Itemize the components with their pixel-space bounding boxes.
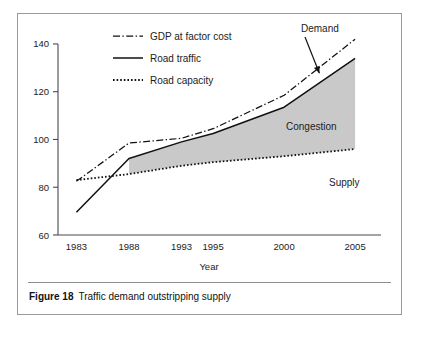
x-axis-tick-label: 1993 [171, 241, 192, 252]
annotation-supply-label: Supply [329, 177, 360, 188]
x-axis-tick-labels: 198319881993199520002005 [66, 241, 366, 252]
chart-legend: GDP at factor costRoad trafficRoad capac… [113, 31, 232, 86]
x-axis-tick-label: 1988 [118, 241, 139, 252]
legend-item-label: Road capacity [150, 75, 213, 86]
caption-divider [28, 282, 391, 283]
y-axis-tick-labels: 6080100120140 [33, 38, 49, 240]
x-axis-title: Year [199, 261, 218, 272]
figure-caption-number: Figure 18 [29, 291, 73, 302]
annotation-congestion-label: Congestion [286, 121, 337, 132]
y-axis-tick-label: 120 [33, 86, 49, 97]
y-axis-tick-label: 80 [38, 182, 49, 193]
legend-item-label: GDP at factor cost [150, 31, 232, 42]
line-chart: 6080100120140 198319881993199520002005 Y… [18, 14, 401, 276]
y-axis-tick-label: 100 [33, 134, 49, 145]
y-axis-tick-label: 60 [38, 230, 49, 241]
x-axis-tick-label: 1983 [66, 241, 87, 252]
y-axis-tick-label: 140 [33, 38, 49, 49]
annotation-demand-label: Demand [301, 23, 339, 34]
figure-caption-text: Traffic demand outstripping supply [78, 291, 230, 302]
figure-frame: 6080100120140 198319881993199520002005 Y… [17, 13, 402, 315]
chart-plot-area: 6080100120140 198319881993199520002005 Y… [18, 14, 401, 276]
annotation-demand-arrowhead [314, 66, 320, 74]
x-axis-tick-label: 1995 [203, 241, 224, 252]
y-axis-ticks [53, 44, 58, 235]
x-axis-tick-label: 2005 [345, 241, 366, 252]
figure-caption: Figure 18Traffic demand outstripping sup… [29, 291, 389, 302]
x-axis-tick-label: 2000 [274, 241, 295, 252]
legend-item-label: Road traffic [150, 53, 201, 64]
